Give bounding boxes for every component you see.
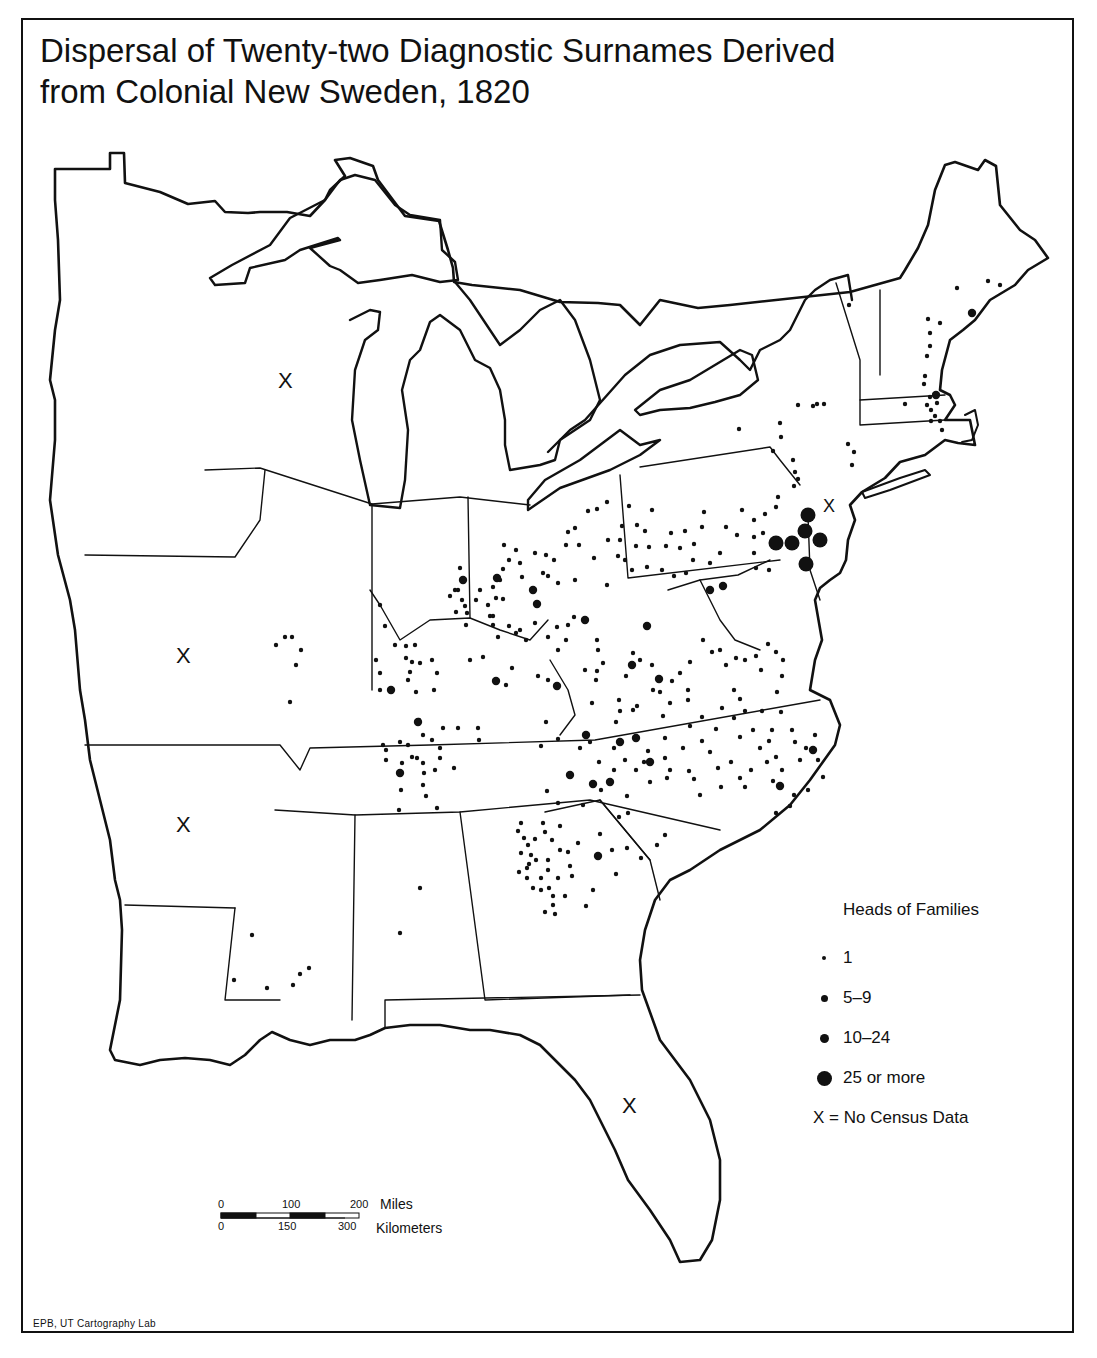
dot-medium [606, 778, 614, 786]
dot-small [298, 972, 302, 976]
dot-small [458, 566, 462, 570]
dot-small [566, 850, 570, 854]
dot-small [740, 508, 744, 512]
dot-small [627, 504, 631, 508]
dot-small [418, 886, 422, 890]
dot-small [743, 658, 747, 662]
dot-small [779, 710, 783, 714]
dot-medium [594, 852, 602, 860]
no-data-x-new-jersey: X [823, 496, 835, 517]
dot-small [687, 769, 691, 773]
dot-small [668, 768, 672, 772]
dot-icon-xlarge [817, 1071, 832, 1086]
dot-small [546, 574, 550, 578]
dot-small [539, 888, 543, 892]
dot-small [534, 858, 538, 862]
dot-small [595, 638, 599, 642]
dot-small [624, 674, 628, 678]
dot-small [660, 568, 664, 572]
no-data-x-michigan-territory: X [278, 368, 293, 394]
dot-small [651, 688, 655, 692]
dot-small [846, 442, 850, 446]
dot-small [452, 766, 456, 770]
dot-small [669, 531, 673, 535]
dot-small [852, 450, 856, 454]
dot-small [491, 585, 495, 589]
dot-small [683, 529, 687, 533]
dot-small [558, 848, 562, 852]
dot-medium [646, 758, 654, 766]
dot-small [520, 575, 524, 579]
dot-small [616, 554, 620, 558]
dot-small [684, 571, 688, 575]
dot-small [551, 903, 555, 907]
dot-small [502, 543, 506, 547]
dot-small [734, 656, 738, 660]
dot-small [514, 548, 518, 552]
dot-small [413, 643, 417, 647]
dot-small [546, 635, 550, 639]
dot-small [378, 688, 382, 692]
dot-small [925, 354, 929, 358]
dot-small [933, 414, 937, 418]
dot-medium [396, 769, 404, 777]
dot-small [465, 611, 469, 615]
dot-small [518, 561, 522, 565]
dot-large [801, 508, 816, 523]
dot-small [698, 793, 702, 797]
dot-small [665, 776, 669, 780]
dot-small [250, 933, 254, 937]
dot-small [398, 740, 402, 744]
dot-medium [529, 586, 537, 594]
dot-small [780, 768, 784, 772]
dot-small [702, 510, 706, 514]
dot-small [738, 735, 742, 739]
dot-small [507, 558, 511, 562]
long-island [862, 470, 930, 498]
no-data-x-missouri: X [176, 643, 191, 669]
dot-small [625, 846, 629, 850]
dot-medium [589, 780, 597, 788]
dot-small [468, 658, 472, 662]
dot-small [463, 604, 467, 608]
dot-small [544, 720, 548, 724]
dot-medium [968, 309, 976, 317]
dot-small [771, 779, 775, 783]
dot-medium [628, 661, 636, 669]
dot-small [299, 648, 303, 652]
dot-small [792, 793, 796, 797]
dot-medium [616, 738, 624, 746]
dot-small [642, 760, 646, 764]
dot-small [476, 726, 480, 730]
dot-small [432, 688, 436, 692]
dot-small [672, 574, 676, 578]
dot-small [410, 755, 414, 759]
dot-small [815, 402, 819, 406]
dot-small [418, 661, 422, 665]
dot-small [517, 870, 521, 874]
legend-no-data-note: X = No Census Data [813, 1098, 979, 1138]
dot-small [501, 567, 505, 571]
dot-small [586, 509, 590, 513]
dot-small [529, 853, 533, 857]
dot-small [494, 596, 498, 600]
dot-small [381, 743, 385, 747]
dot-small [752, 535, 756, 539]
dot-small [433, 768, 437, 772]
dot-small [793, 470, 797, 474]
dot-small [767, 568, 771, 572]
dot-small [928, 331, 932, 335]
dot-small [735, 533, 739, 537]
dot-small [658, 690, 662, 694]
dot-small [456, 726, 460, 730]
dot-small [663, 833, 667, 837]
dot-small [583, 668, 587, 672]
dot-small [378, 671, 382, 675]
dot-small [568, 864, 572, 868]
lake-huron-shore [455, 282, 600, 452]
dot-small [718, 648, 722, 652]
dot-small [519, 821, 523, 825]
dot-small [774, 505, 778, 509]
dot-small [663, 756, 667, 760]
dot-small [650, 663, 654, 667]
